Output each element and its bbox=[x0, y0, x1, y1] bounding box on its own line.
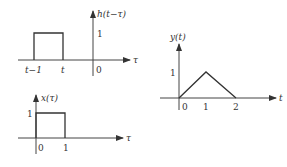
h-xtick-t: t bbox=[61, 65, 65, 75]
y-triangle bbox=[179, 72, 236, 98]
x-xlabel: τ bbox=[126, 133, 132, 143]
y-ytick-1: 1 bbox=[170, 68, 176, 78]
h-ylabel: h(t−τ) bbox=[97, 9, 126, 19]
x-xtick-1: 1 bbox=[63, 143, 69, 153]
plot-y-t: y(t) 1 t 0 1 2 bbox=[160, 32, 283, 112]
x-rect-pulse bbox=[36, 113, 65, 138]
h-ytick-1: 1 bbox=[97, 29, 103, 39]
y-ylabel: y(t) bbox=[169, 32, 186, 42]
x-ytick-1: 1 bbox=[27, 109, 33, 119]
plot-h-t-minus-tau: h(t−τ) 1 τ 0 t−1 t bbox=[18, 9, 139, 76]
plot-x-tau: x(τ) 1 τ 0 1 bbox=[18, 93, 132, 154]
y-xtick-1: 1 bbox=[203, 102, 209, 112]
y-xlabel: t bbox=[279, 93, 283, 103]
y-xtick-2: 2 bbox=[233, 102, 239, 112]
diagram-canvas: h(t−τ) 1 τ 0 t−1 t x(τ) 1 τ 0 1 y(t) 1 t… bbox=[0, 0, 287, 167]
h-xtick-t-minus-1: t−1 bbox=[25, 65, 42, 75]
x-ylabel: x(τ) bbox=[41, 93, 59, 103]
x-xtick-0: 0 bbox=[38, 143, 44, 153]
h-origin: 0 bbox=[96, 65, 102, 75]
y-xtick-0: 0 bbox=[182, 102, 188, 112]
h-rect-pulse bbox=[34, 33, 63, 60]
h-xlabel: τ bbox=[133, 55, 139, 65]
